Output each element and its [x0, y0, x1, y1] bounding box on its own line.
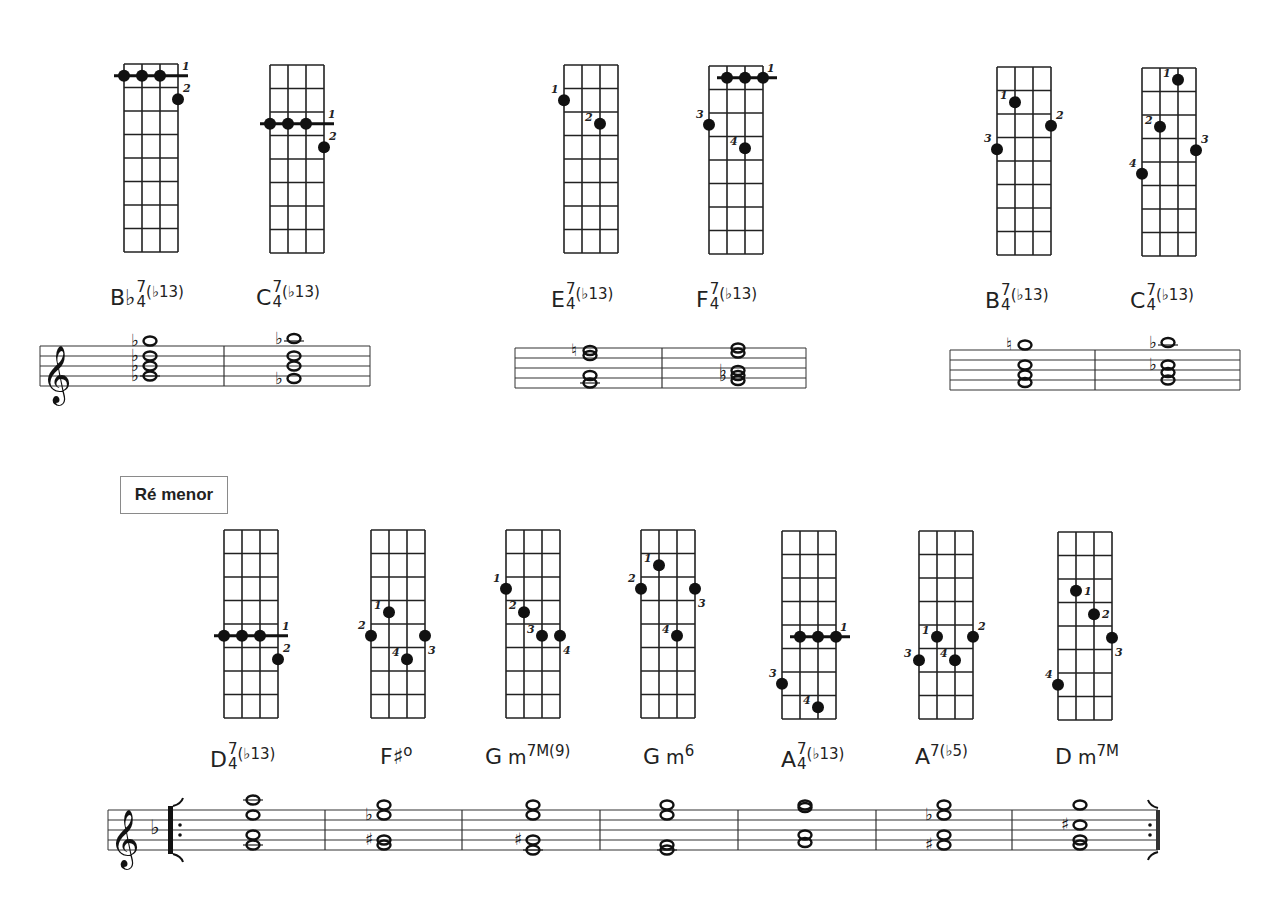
flat-icon: ♭ [1149, 354, 1157, 374]
finger-number: 1 [922, 624, 930, 637]
section-title-re-menor: Ré menor [120, 476, 228, 514]
whole-note [378, 811, 391, 820]
whole-note [938, 811, 951, 820]
finger-dot [991, 143, 1003, 155]
finger-dot [653, 559, 665, 571]
chord-diagram-dm7M: 1234 [1040, 514, 1130, 738]
sharp-icon: ♯ [1061, 814, 1069, 834]
barre-dot [812, 631, 824, 643]
finger-dot [419, 630, 431, 642]
whole-note [1074, 801, 1087, 810]
finger-dot [689, 583, 701, 595]
barre-dot [739, 72, 751, 84]
flat-icon: ♭ [1149, 332, 1157, 352]
flat-icon: ♭ [925, 804, 933, 824]
staff-2: ♮♭♭ [495, 308, 826, 428]
chord-diagram-c4-7-b13: 12 [252, 47, 342, 271]
finger-number: 1 [644, 552, 652, 565]
finger-number: 1 [767, 62, 775, 75]
whole-note [938, 831, 951, 840]
finger-dot [739, 142, 751, 154]
key-signature-flat-icon: ♭ [150, 815, 159, 839]
barre-dot [118, 70, 130, 82]
chord-name-a7-b5: A7(♭5) [915, 746, 968, 768]
flat-icon: ♭ [365, 804, 373, 824]
chord-diagram-e4-7-b13: 12 [546, 47, 636, 271]
chord-name-gm6: G m6 [643, 746, 694, 768]
finger-dot [635, 583, 647, 595]
finger-dot [401, 653, 413, 665]
whole-note [1019, 361, 1032, 370]
finger-number: 2 [1101, 608, 1110, 621]
finger-number: 2 [1055, 109, 1064, 122]
staff-re-menor: 𝄞♭♭♯♯♭♯♯ [88, 770, 1178, 890]
finger-dot [1136, 168, 1148, 180]
finger-dot [518, 606, 530, 618]
whole-note [247, 811, 260, 820]
finger-number: 4 [563, 644, 571, 657]
finger-number: 2 [1144, 114, 1153, 127]
natural-icon: ♮ [1006, 334, 1012, 354]
flat-icon: ♭ [719, 365, 727, 385]
barre-dot [218, 630, 230, 642]
barre-dot [254, 630, 266, 642]
finger-dot [931, 631, 943, 643]
finger-number: 1 [182, 60, 190, 73]
chord-diagram-fsharp-dim: 1234 [353, 512, 443, 736]
finger-dot [1052, 679, 1064, 691]
finger-number: 4 [730, 135, 738, 148]
whole-note [144, 337, 157, 346]
barre-dot [721, 72, 733, 84]
finger-dot [558, 94, 570, 106]
finger-number: 2 [627, 572, 636, 585]
finger-number: 3 [527, 623, 535, 636]
whole-note [288, 334, 301, 343]
whole-note [527, 811, 540, 820]
finger-dot [1172, 74, 1184, 86]
finger-number: 3 [696, 108, 704, 121]
treble-clef-icon: 𝄞 [42, 345, 72, 406]
finger-number: 3 [904, 647, 912, 660]
finger-number: 4 [662, 623, 670, 636]
flat-icon: ♭ [131, 365, 139, 385]
whole-note [938, 801, 951, 810]
finger-dot [1070, 585, 1082, 597]
barre-dot [282, 118, 294, 130]
finger-number: 4 [1045, 668, 1053, 681]
finger-dot [500, 583, 512, 595]
chord-diagram-b4-7-b13: 123 [979, 49, 1069, 273]
sharp-icon: ♯ [925, 834, 933, 854]
whole-note [247, 831, 260, 840]
finger-number: 3 [428, 644, 436, 657]
finger-dot [949, 654, 961, 666]
whole-note [527, 801, 540, 810]
whole-note [378, 801, 391, 810]
finger-number: 4 [392, 646, 400, 659]
whole-note [1019, 341, 1032, 350]
finger-number: 2 [584, 111, 593, 124]
finger-dot [812, 701, 824, 713]
finger-number: 3 [1201, 133, 1209, 146]
barre-dot [300, 118, 312, 130]
finger-dot [913, 654, 925, 666]
barre-dot [794, 631, 806, 643]
chord-name-dm7M: D m7M [1055, 746, 1119, 768]
flat-icon: ♭ [275, 368, 283, 388]
finger-number: 2 [182, 82, 191, 95]
sharp-icon: ♯ [365, 829, 373, 849]
whole-note [288, 374, 301, 383]
whole-note [1162, 338, 1175, 347]
chord-name-fsharp-dim: F♯o [380, 746, 413, 768]
chord-diagram-d4-7-b13: 12 [206, 512, 296, 736]
whole-note [661, 801, 674, 810]
chord-diagram-f4-7-b13: 134 [691, 48, 781, 272]
finger-number: 2 [508, 599, 517, 612]
finger-dot [1009, 96, 1021, 108]
whole-note [661, 811, 674, 820]
finger-number: 2 [282, 642, 291, 655]
finger-number: 1 [328, 108, 336, 121]
finger-dot [1088, 608, 1100, 620]
finger-dot [554, 630, 566, 642]
whole-note [1074, 821, 1087, 830]
finger-dot [365, 630, 377, 642]
